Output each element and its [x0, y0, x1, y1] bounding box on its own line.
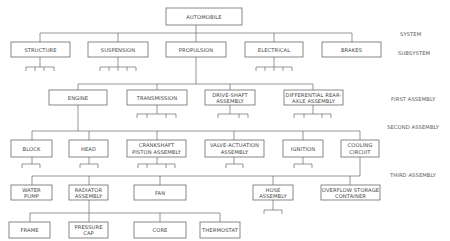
node-driveshaft-assembly[interactable]: DRIVE-SHAFT ASSEMBLY	[205, 90, 255, 105]
node-hose-assembly[interactable]: HOSE ASSEMBLY	[253, 185, 293, 200]
node-label: ASSEMBLY	[216, 98, 244, 104]
node-label: AXLE ASSEMBLY	[292, 98, 336, 104]
level-labels: SYSTEM SUBSYSTEM FIRST ASSEMBLY SECOND A…	[387, 31, 440, 178]
level-label-third-assembly: THIRD ASSEMBLY	[389, 172, 437, 178]
level-label-second-assembly: SECOND ASSEMBLY	[387, 124, 440, 130]
node-label: ASSEMBLY	[221, 149, 249, 155]
node-label: BLOCK	[23, 146, 41, 152]
node-label: TRANSMISSION	[136, 95, 178, 101]
level-label-subsystem: SUBSYSTEM	[398, 50, 430, 56]
node-label: ENGINE	[68, 95, 88, 101]
node-label: ASSEMBLY	[259, 193, 287, 199]
node-label: FRAME	[20, 227, 38, 233]
node-label: VALVE-ACTUATION	[210, 142, 259, 148]
node-brakes[interactable]: BRAKES	[322, 42, 381, 57]
node-label: PROPULSION	[179, 47, 213, 53]
node-label: PRESSURE	[74, 224, 102, 230]
node-core[interactable]: CORE	[134, 222, 186, 238]
node-label: THERMOSTAT	[201, 227, 239, 233]
node-propulsion[interactable]: PROPULSION	[166, 42, 226, 57]
node-label: AUTOMOBILE	[186, 14, 221, 20]
node-label: PUMP	[24, 193, 39, 199]
node-block[interactable]: BLOCK	[11, 140, 52, 157]
node-label: ASSEMBLY	[75, 193, 103, 199]
node-radiator-assembly[interactable]: RADIATOR ASSEMBLY	[69, 185, 108, 200]
node-automobile[interactable]: AUTOMOBILE	[166, 8, 242, 25]
node-engine[interactable]: ENGINE	[49, 90, 107, 105]
node-electrical[interactable]: ELECTRICAL	[245, 42, 303, 57]
node-label: CAP	[83, 230, 94, 236]
node-fan[interactable]: FAN	[134, 185, 186, 200]
node-cooling-circuit[interactable]: COOLING CIRCUIT	[341, 140, 379, 157]
node-crankshaft-piston-assembly[interactable]: CRANKSHAFT PISTON ASSEMBLY	[127, 140, 186, 157]
node-label: CIRCUIT	[349, 149, 371, 155]
node-differential-rear-axle-assembly[interactable]: DIFFERENTIAL REAR- AXLE ASSEMBLY	[284, 90, 343, 105]
node-label: SUSPENSION	[101, 47, 135, 53]
level-label-first-assembly: FIRST ASSEMBLY	[391, 96, 436, 102]
node-label: FAN	[155, 190, 165, 196]
node-overflow-storage-container[interactable]: OVERFLOW STORAGE CONTAINER	[321, 185, 380, 200]
node-suspension[interactable]: SUSPENSION	[88, 42, 148, 57]
node-label: COOLING	[348, 142, 373, 148]
node-label: ELECTRICAL	[258, 47, 290, 53]
level-label-system: SYSTEM	[400, 31, 421, 37]
node-head[interactable]: HEAD	[69, 140, 108, 157]
diagram-canvas: AUTOMOBILE STRUCTURE SUSPENSION PROPULSI…	[0, 0, 450, 241]
node-structure[interactable]: STRUCTURE	[11, 42, 70, 57]
node-thermostat[interactable]: THERMOSTAT	[200, 222, 240, 238]
node-water-pump[interactable]: WATER PUMP	[11, 185, 52, 200]
node-label: CORE	[153, 227, 168, 233]
node-label: HEAD	[81, 146, 96, 152]
node-ignition[interactable]: IGNITION	[283, 140, 323, 157]
node-label: BRAKES	[341, 47, 362, 53]
node-label: PISTON ASSEMBLY	[132, 149, 182, 155]
node-valve-actuation-assembly[interactable]: VALVE-ACTUATION ASSEMBLY	[205, 140, 264, 157]
node-label: STRUCTURE	[24, 47, 56, 53]
node-label: CONTAINER	[335, 193, 366, 199]
node-transmission[interactable]: TRANSMISSION	[127, 90, 187, 105]
node-frame[interactable]: FRAME	[9, 222, 50, 238]
node-label: IGNITION	[291, 146, 315, 152]
node-pressure-cap[interactable]: PRESSURE CAP	[69, 222, 108, 238]
node-label: CRANKSHAFT	[139, 142, 175, 148]
